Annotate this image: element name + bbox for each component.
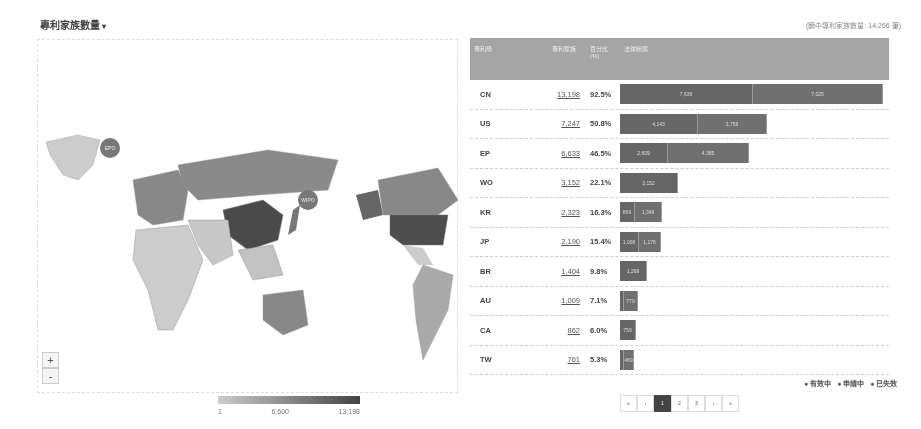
legal-status-bar: 779 [620,291,889,311]
total-count: (篩中專利家族數量: 14,266 筆) [806,20,901,30]
office-code: AU [470,296,528,305]
percent: 9.8% [580,267,620,276]
page-button[interactable]: « [620,395,637,412]
legal-status-bar: 469 [620,350,889,370]
percent: 5.3% [580,355,620,364]
table-header: 專利局 專利家族 百分比(%) 法律狀態 [470,38,889,80]
family-count-link[interactable]: 1,404 [528,267,580,276]
chevron-down-icon: ▾ [102,22,106,31]
status-segment[interactable]: 1,269 [620,261,647,281]
office-code: CA [470,326,528,335]
epo-marker[interactable]: EPO [100,138,120,158]
legal-status-bar: 1,269 [620,261,889,281]
page-button[interactable]: ‹ [637,395,654,412]
status-segment[interactable]: 759 [620,320,636,340]
header-family[interactable]: 專利家族 [528,38,580,80]
status-segment[interactable]: 4,143 [620,114,698,134]
legal-status-bar: 4,1433,758 [620,114,889,134]
legal-status-bar: 1,0081,176 [620,232,889,252]
percent: 46.5% [580,149,620,158]
office-code: KR [470,208,528,217]
status-segment[interactable]: 7,636 [620,84,753,104]
status-legend: ● 有效中 ● 申請中 ● 已失效 [800,378,897,388]
table-row: US 7,247 50.8% 4,1433,758 [470,110,889,140]
header-office[interactable]: 專利局 [470,38,528,80]
family-count-link[interactable]: 2,323 [528,208,580,217]
family-count-link[interactable]: 761 [528,355,580,364]
header-legal-status[interactable]: 法律狀態 [620,38,652,80]
status-segment[interactable]: 3,758 [698,114,767,134]
office-code: CN [470,90,528,99]
wipo-marker[interactable]: WIPO [298,190,318,210]
title-text: 專利家族數量 [40,20,100,31]
office-code: BR [470,267,528,276]
family-count-link[interactable]: 7,247 [528,119,580,128]
legal-status-bar: 759 [620,320,889,340]
status-segment[interactable]: 1,349 [635,202,662,222]
status-segment[interactable]: 469 [624,350,634,370]
status-segment[interactable]: 3,152 [620,173,678,193]
office-code: WO [470,178,528,187]
page-button[interactable]: › [705,395,722,412]
office-code: US [470,119,528,128]
table-row: CN 13,198 92.5% 7,6367,025 [470,80,889,110]
table-row: TW 761 5.3% 469 [470,346,889,376]
family-count-link[interactable]: 6,633 [528,149,580,158]
office-code: JP [470,237,528,246]
percent: 92.5% [580,90,620,99]
percent: 7.1% [580,296,620,305]
map-shapes [38,40,459,394]
zoom-out-button[interactable]: - [42,368,59,384]
legal-status-bar: 8691,349 [620,202,889,222]
page-title[interactable]: 專利家族數量▾ [40,17,106,32]
family-count-link[interactable]: 13,198 [528,90,580,99]
status-segment[interactable]: 779 [624,291,638,311]
table-row: AU 1,009 7.1% 779 [470,287,889,317]
legend-active[interactable]: ● 有效中 [804,380,831,387]
page-button[interactable]: » [722,395,739,412]
scale-max: 13,198 [339,408,360,415]
scale-mid: 6,600 [271,408,289,415]
status-segment[interactable]: 1,008 [620,232,639,252]
status-segment[interactable]: 869 [620,202,635,222]
percent: 16.3% [580,208,620,217]
header-percent[interactable]: 百分比(%) [580,38,620,80]
percent: 22.1% [580,178,620,187]
legend-expired[interactable]: ● 已失效 [870,380,897,387]
color-scale-labels: 1 6,600 13,198 [218,408,360,415]
page-button[interactable]: 3 [688,395,705,412]
world-map[interactable]: EPO WIPO + - 1 6,600 13,198 [37,39,458,393]
patent-office-table: 專利局 專利家族 百分比(%) 法律狀態 CN 13,198 92.5% 7,6… [470,38,889,375]
pagination: «‹123›» [620,395,739,412]
table-row: BR 1,404 9.8% 1,269 [470,257,889,287]
table-row: EP 6,633 46.5% 2,6094,385 [470,139,889,169]
office-code: EP [470,149,528,158]
family-count-link[interactable]: 1,009 [528,296,580,305]
page-button[interactable]: 1 [654,395,671,412]
color-scale-bar [218,396,360,404]
family-count-link[interactable]: 2,190 [528,237,580,246]
percent: 6.0% [580,326,620,335]
page-button[interactable]: 2 [671,395,688,412]
status-segment[interactable]: 4,385 [668,143,749,163]
status-segment[interactable]: 1,176 [639,232,661,252]
status-segment[interactable]: 7,025 [753,84,883,104]
family-count-link[interactable]: 862 [528,326,580,335]
legal-status-bar: 3,152 [620,173,889,193]
family-count-link[interactable]: 3,152 [528,178,580,187]
percent: 50.8% [580,119,620,128]
table-row: JP 2,190 15.4% 1,0081,176 [470,228,889,258]
status-segment[interactable]: 2,609 [620,143,668,163]
legal-status-bar: 2,6094,385 [620,143,889,163]
table-row: KR 2,323 16.3% 8691,349 [470,198,889,228]
table-body: CN 13,198 92.5% 7,6367,025US 7,247 50.8%… [470,80,889,375]
legend-pending[interactable]: ● 申請中 [837,380,864,387]
legal-status-bar: 7,6367,025 [620,84,889,104]
table-row: CA 862 6.0% 759 [470,316,889,346]
percent: 15.4% [580,237,620,246]
zoom-in-button[interactable]: + [42,352,59,368]
table-row: WO 3,152 22.1% 3,152 [470,169,889,199]
scale-min: 1 [218,408,222,415]
office-code: TW [470,355,528,364]
